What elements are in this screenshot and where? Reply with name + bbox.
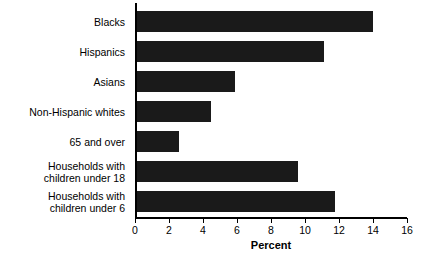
x-tick-6 <box>237 218 238 223</box>
x-tick-label-6: 6 <box>225 224 249 236</box>
category-label-hispanics: Hispanics <box>0 46 125 58</box>
bar-asians <box>137 71 236 92</box>
x-tick-label-2: 2 <box>157 224 181 236</box>
bar-chart: Blacks Hispanics Asians Non-Hispanic whi… <box>0 0 432 263</box>
category-label-households-under-6: Households with children under 6 <box>0 190 125 214</box>
bar-households-under-18 <box>137 161 299 182</box>
category-label-households-under-18: Households with children under 18 <box>0 160 125 184</box>
x-tick-0 <box>135 218 136 223</box>
bar-non-hispanic-whites <box>137 101 212 122</box>
category-label-asians: Asians <box>0 76 125 88</box>
bar-hispanics <box>137 41 324 62</box>
x-tick-16 <box>407 218 408 223</box>
bar-blacks <box>137 11 373 32</box>
category-label-65-and-over: 65 and over <box>0 136 125 148</box>
x-tick-2 <box>169 218 170 223</box>
x-tick-label-10: 10 <box>293 224 317 236</box>
x-tick-label-0: 0 <box>123 224 147 236</box>
category-label-blacks: Blacks <box>0 16 125 28</box>
x-tick-label-12: 12 <box>327 224 351 236</box>
category-axis-labels: Blacks Hispanics Asians Non-Hispanic whi… <box>0 3 130 217</box>
x-tick-label-14: 14 <box>361 224 385 236</box>
x-tick-4 <box>203 218 204 223</box>
x-tick-8 <box>271 218 272 223</box>
x-tick-label-16: 16 <box>395 224 419 236</box>
x-tick-10 <box>305 218 306 223</box>
plot-area: 0246810121416 <box>135 3 410 217</box>
x-tick-label-4: 4 <box>191 224 215 236</box>
x-axis-title: Percent <box>135 239 407 251</box>
x-tick-14 <box>373 218 374 223</box>
x-tick-label-8: 8 <box>259 224 283 236</box>
category-label-non-hispanic-whites: Non-Hispanic whites <box>0 106 125 118</box>
bar-households-under-6 <box>137 191 336 212</box>
bar-65-and-over <box>137 131 180 152</box>
x-tick-12 <box>339 218 340 223</box>
